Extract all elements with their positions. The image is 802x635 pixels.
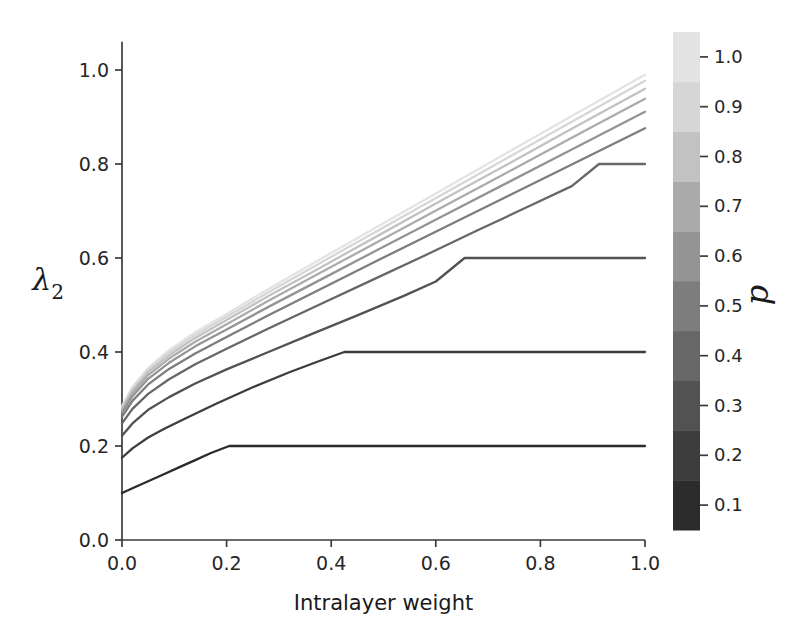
y-tick-label: 0.4	[79, 341, 109, 363]
data-curve	[122, 446, 645, 493]
x-tick-label: 0.2	[211, 552, 241, 574]
y-axis-title-subscript: 2	[51, 280, 64, 304]
data-curve	[122, 258, 645, 436]
colorbar-band	[673, 381, 700, 431]
svg-text:λ2: λ2	[31, 262, 64, 304]
y-axis-title-symbol: λ	[31, 262, 51, 297]
colorbar-tick-label: 0.3	[714, 395, 743, 416]
data-curve	[122, 99, 645, 411]
chart-svg: 0.00.20.40.60.81.00.00.20.40.60.81.0 0.1…	[0, 0, 802, 635]
y-tick-label: 1.0	[79, 59, 109, 81]
colorbar-tick-label: 1.0	[714, 46, 743, 67]
x-tick-label: 0.0	[107, 552, 137, 574]
data-curve	[122, 81, 645, 408]
axis-labels-group: Intralayer weightλ2p	[31, 262, 776, 615]
colorbar-tick-label: 0.4	[714, 345, 743, 366]
colorbar-band	[673, 430, 700, 480]
y-tick-label: 0.0	[79, 529, 109, 551]
colorbar-tick-label: 0.9	[714, 96, 743, 117]
colorbar-band	[673, 231, 700, 281]
colorbar-band	[673, 32, 700, 82]
data-curve	[122, 164, 645, 423]
colorbar-tick-label: 0.1	[714, 494, 743, 515]
x-tick-label: 0.6	[421, 552, 451, 574]
y-tick-label: 0.8	[79, 153, 109, 175]
colorbar-band	[673, 181, 700, 231]
colorbar-title: p	[738, 285, 776, 305]
colorbar-band	[673, 82, 700, 132]
colorbar-tick-label: 0.6	[714, 245, 743, 266]
x-tick-label: 0.8	[525, 552, 555, 574]
colorbar-tick-label: 0.7	[714, 195, 743, 216]
data-curve	[122, 112, 645, 413]
data-curve	[122, 128, 645, 417]
colorbar-tick-label: 0.2	[714, 444, 743, 465]
data-curve	[122, 352, 645, 458]
x-axis-title: Intralayer weight	[294, 591, 473, 615]
colorbar-tick-label: 0.8	[714, 146, 743, 167]
colorbar-group: 0.10.20.30.40.50.60.70.80.91.0	[673, 32, 743, 531]
colorbar-band	[673, 480, 700, 530]
colorbar-band	[673, 132, 700, 182]
curves-group	[122, 75, 645, 493]
x-tick-label: 1.0	[630, 552, 660, 574]
figure-container: 0.00.20.40.60.81.00.00.20.40.60.81.0 0.1…	[0, 0, 802, 635]
x-tick-label: 0.4	[316, 552, 346, 574]
y-tick-label: 0.6	[79, 247, 109, 269]
y-axis-title: λ2	[31, 262, 64, 304]
y-tick-label: 0.2	[79, 435, 109, 457]
colorbar-band	[673, 331, 700, 381]
colorbar-band	[673, 281, 700, 331]
